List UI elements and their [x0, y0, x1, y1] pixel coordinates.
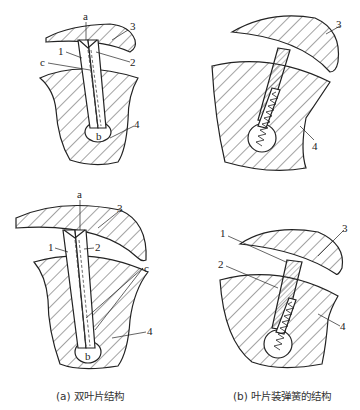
caption-a: (a) 双叶片结构	[56, 388, 124, 403]
diagram-canvas: a 3 1 2 c 4 b 3 4 a 3	[0, 0, 360, 410]
spring-chamber	[248, 124, 276, 152]
label-3: 3	[130, 20, 136, 32]
panel-a-bottom: a 3 1 2 c 4 b	[16, 188, 153, 369]
label-2: 2	[130, 56, 136, 68]
label-1: 1	[220, 227, 226, 239]
label-2: 2	[95, 241, 101, 253]
panel-b-top: 3 4	[212, 16, 342, 171]
label-b: b	[96, 130, 102, 142]
panel-a-top: a 3 1 2 c 4 b	[40, 10, 140, 165]
label-b: b	[85, 350, 91, 362]
label-4: 4	[147, 325, 153, 337]
label-1: 1	[48, 241, 54, 253]
label-3: 3	[117, 202, 123, 214]
label-4: 4	[312, 140, 318, 152]
label-2: 2	[218, 258, 224, 270]
label-c: c	[40, 56, 45, 68]
panel-b-bottom: 1 2 3 4	[218, 222, 348, 368]
label-a: a	[77, 188, 82, 200]
label-3: 3	[336, 18, 342, 30]
label-1: 1	[58, 45, 64, 57]
label-4: 4	[340, 320, 346, 332]
caption-b: (b) 叶片装弹簧的结构	[233, 388, 331, 403]
label-3: 3	[342, 222, 348, 234]
label-c: c	[144, 262, 149, 274]
label-4: 4	[134, 118, 140, 130]
label-a: a	[83, 10, 88, 22]
